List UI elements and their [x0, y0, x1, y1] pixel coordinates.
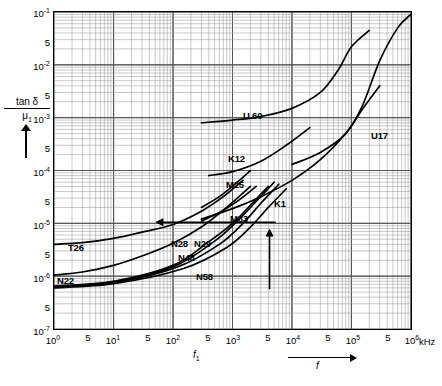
x-tick-1e5: 105	[346, 333, 360, 346]
curve-label-u60: U 60	[243, 111, 262, 121]
x-tick-1e4: 104	[286, 333, 300, 346]
curve-label-n22: N22	[57, 276, 74, 286]
x-tick-5e5: 5	[385, 333, 390, 343]
curve-label-n28: N28	[171, 239, 188, 249]
x-tick-5e1: 5	[145, 333, 150, 343]
y-tick-1e-4: 10-4	[4, 165, 50, 178]
y-tick-5e-4: 5	[4, 144, 50, 154]
x-tick-1e3: 103	[226, 333, 240, 346]
left-pointing-arrow-head	[156, 219, 162, 226]
curve-k12	[209, 128, 310, 176]
x-axis-direction-group: f	[288, 352, 360, 366]
y-axis-direction-arrow	[25, 128, 27, 158]
x-axis-unit: kHz	[419, 336, 435, 347]
x-tick-1e0: 100	[46, 333, 60, 346]
curve-t26	[54, 180, 243, 244]
x-tick-5e2: 5	[205, 333, 210, 343]
y-tick-5e-6: 5	[4, 250, 50, 260]
curve-label-t26: T26	[68, 243, 84, 253]
up-pointing-arrow-head	[266, 230, 273, 236]
curves-layer	[54, 12, 411, 329]
x-axis-f1-label: f1	[193, 349, 200, 362]
y-tick-1e-1: 10-1	[4, 6, 50, 19]
y-axis-tick-labels: 10-1 5 10-2 5 10-3 5 10-4 5 10-5 5 10-6 …	[0, 0, 50, 330]
y-tick-1e-6: 10-6	[4, 271, 50, 284]
x-axis-direction-line	[288, 357, 352, 358]
curve-label-n48: N48	[178, 253, 195, 263]
curve-label-m25: M25	[226, 180, 244, 190]
y-axis-title-denominator: μ1	[4, 109, 50, 125]
curve-u60	[201, 30, 369, 122]
y-tick-5e-5: 5	[4, 197, 50, 207]
y-tick-5e-7: 5	[4, 303, 50, 313]
curve-label-k12: K12	[228, 154, 245, 164]
x-tick-5e3: 5	[265, 333, 270, 343]
curve-label-k1: K1	[274, 199, 286, 209]
curve-label-u17: U17	[371, 131, 388, 141]
chart-root: 10-1 5 10-2 5 10-3 5 10-4 5 10-5 5 10-6 …	[0, 0, 442, 386]
x-tick-5e0: 5	[85, 333, 90, 343]
x-tick-5e4: 5	[325, 333, 330, 343]
x-axis-tick-labels: 100 5 101 5 102 5 103 5 104 5 105 5 106	[0, 333, 442, 353]
x-tick-1e1: 101	[106, 333, 120, 346]
y-tick-1e-5: 10-5	[4, 218, 50, 231]
x-axis-variable-label: f	[316, 360, 319, 371]
curve-label-n29: N29	[194, 239, 211, 249]
x-axis-direction-arrowhead	[350, 354, 357, 362]
y-axis-title-numerator: tan δ	[4, 96, 50, 109]
curve-label-m33: M33	[230, 214, 248, 224]
x-tick-1e6: 106	[405, 333, 419, 346]
x-tick-1e2: 102	[166, 333, 180, 346]
curve-label-n58: N58	[196, 272, 213, 282]
plot-area	[53, 11, 412, 330]
y-tick-1e-2: 10-2	[4, 59, 50, 72]
y-axis-title: tan δ μ1	[4, 96, 50, 125]
y-tick-5e-2: 5	[4, 38, 50, 48]
curve-u17	[292, 14, 411, 164]
